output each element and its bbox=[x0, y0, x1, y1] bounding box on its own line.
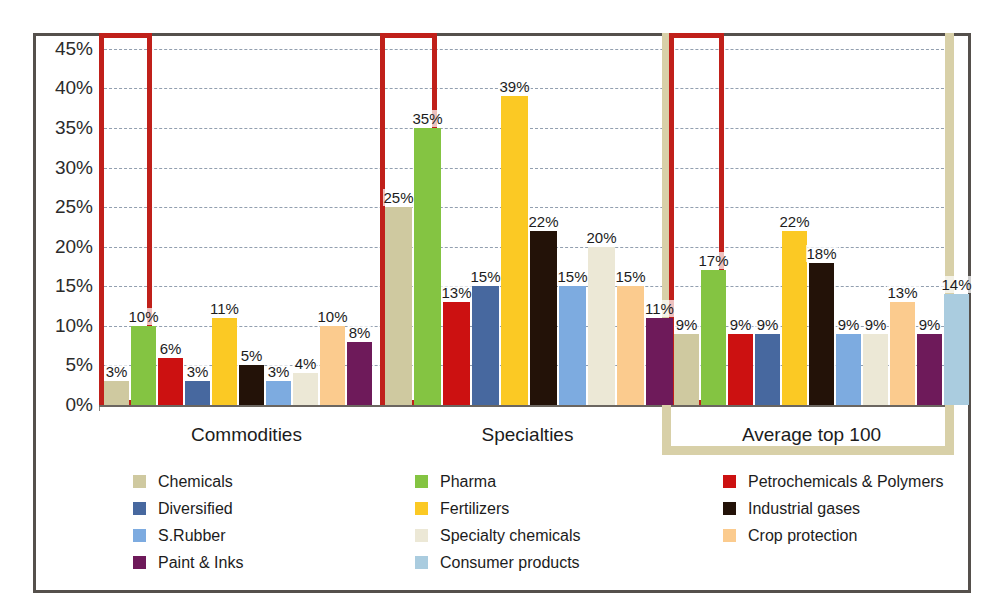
bar[interactable]: 18% bbox=[809, 263, 834, 405]
bar[interactable]: 25% bbox=[385, 207, 412, 405]
bar-value-label: 22% bbox=[527, 213, 559, 230]
legend-item[interactable]: Specialty chemicals bbox=[415, 522, 581, 549]
bar[interactable]: 39% bbox=[501, 96, 528, 405]
bar[interactable]: 13% bbox=[890, 302, 915, 405]
bar-value-label: 9% bbox=[729, 316, 753, 333]
y-axis-tick-label: 10% bbox=[37, 315, 93, 337]
bar-value-label: 8% bbox=[348, 324, 372, 341]
legend-label: Crop protection bbox=[748, 527, 857, 545]
bar[interactable]: 20% bbox=[588, 247, 615, 405]
chart-legend: ChemicalsDiversifiedS.RubberPaint & Inks… bbox=[133, 468, 933, 568]
bar[interactable]: 14% bbox=[944, 294, 969, 405]
bar-value-label: 39% bbox=[498, 78, 530, 95]
bar-value-label: 9% bbox=[918, 316, 942, 333]
legend-item[interactable]: Industrial gases bbox=[723, 495, 944, 522]
bar-value-label: 10% bbox=[316, 308, 348, 325]
legend-swatch-icon bbox=[415, 475, 428, 488]
bar[interactable]: 4% bbox=[293, 373, 318, 405]
x-axis-line bbox=[99, 405, 954, 407]
y-axis-labels: 45%40%35%30%25%20%15%10%5%0% bbox=[33, 33, 93, 405]
legend-item[interactable]: Fertilizers bbox=[415, 495, 581, 522]
bar[interactable]: 9% bbox=[755, 334, 780, 405]
bar-value-label: 35% bbox=[411, 110, 443, 127]
bar[interactable]: 15% bbox=[617, 286, 644, 405]
bar[interactable]: 22% bbox=[530, 231, 557, 405]
y-axis-tick-label: 45% bbox=[37, 38, 93, 60]
legend-column: ChemicalsDiversifiedS.RubberPaint & Inks bbox=[133, 468, 243, 576]
legend-label: Industrial gases bbox=[748, 500, 860, 518]
bar[interactable]: 9% bbox=[674, 334, 699, 405]
category-label: Specialties bbox=[385, 424, 670, 446]
bar-value-label: 17% bbox=[697, 252, 729, 269]
bar[interactable]: 11% bbox=[646, 318, 673, 405]
legend-item[interactable]: Chemicals bbox=[133, 468, 243, 495]
bar[interactable]: 13% bbox=[443, 302, 470, 405]
bar[interactable]: 35% bbox=[414, 128, 441, 405]
legend-label: S.Rubber bbox=[158, 527, 226, 545]
legend-swatch-icon bbox=[415, 502, 428, 515]
legend-label: Chemicals bbox=[158, 473, 233, 491]
legend-item[interactable]: Consumer products bbox=[415, 549, 581, 576]
bar-value-label: 9% bbox=[837, 316, 861, 333]
bar[interactable]: 15% bbox=[559, 286, 586, 405]
bar-value-label: 22% bbox=[778, 213, 810, 230]
bar[interactable]: 9% bbox=[728, 334, 753, 405]
legend-label: Diversified bbox=[158, 500, 233, 518]
legend-item[interactable]: Pharma bbox=[415, 468, 581, 495]
y-axis-tick-label: 15% bbox=[37, 275, 93, 297]
legend-item[interactable]: Crop protection bbox=[723, 522, 944, 549]
bar-value-label: 6% bbox=[159, 340, 183, 357]
bar[interactable]: 5% bbox=[239, 365, 264, 405]
bar[interactable]: 11% bbox=[212, 318, 237, 405]
bar[interactable]: 9% bbox=[836, 334, 861, 405]
bar-value-label: 20% bbox=[585, 229, 617, 246]
bar[interactable]: 15% bbox=[472, 286, 499, 405]
gridline bbox=[99, 49, 954, 50]
legend-swatch-icon bbox=[723, 475, 736, 488]
legend-swatch-icon bbox=[415, 529, 428, 542]
bar[interactable]: 9% bbox=[863, 334, 888, 405]
bar[interactable]: 9% bbox=[917, 334, 942, 405]
bar[interactable]: 10% bbox=[320, 326, 345, 405]
legend-item[interactable]: S.Rubber bbox=[133, 522, 243, 549]
legend-label: Pharma bbox=[440, 473, 496, 491]
bar-value-label: 13% bbox=[886, 284, 918, 301]
bar-value-label: 5% bbox=[240, 347, 264, 364]
y-axis-tick-label: 5% bbox=[37, 354, 93, 376]
bar-value-label: 3% bbox=[105, 363, 129, 380]
legend-swatch-icon bbox=[415, 556, 428, 569]
bar-value-label: 13% bbox=[440, 284, 472, 301]
bar[interactable]: 10% bbox=[131, 326, 156, 405]
bar-value-label: 11% bbox=[209, 300, 240, 317]
bar-value-label: 9% bbox=[864, 316, 888, 333]
y-axis-tick-label: 0% bbox=[37, 394, 93, 416]
bar-value-label: 25% bbox=[382, 189, 414, 206]
y-axis-tick-label: 35% bbox=[37, 117, 93, 139]
bar-value-label: 10% bbox=[127, 308, 159, 325]
y-axis-tick-label: 40% bbox=[37, 77, 93, 99]
bar[interactable]: 3% bbox=[185, 381, 210, 405]
legend-label: Petrochemicals & Polymers bbox=[748, 473, 944, 491]
bar[interactable]: 6% bbox=[158, 358, 183, 405]
bar-value-label: 18% bbox=[805, 245, 837, 262]
category-label: Average top 100 bbox=[674, 424, 949, 446]
y-axis-tick-label: 20% bbox=[37, 236, 93, 258]
bar-value-label: 9% bbox=[756, 316, 780, 333]
legend-item[interactable]: Diversified bbox=[133, 495, 243, 522]
legend-item[interactable]: Paint & Inks bbox=[133, 549, 243, 576]
bar[interactable]: 17% bbox=[701, 270, 726, 405]
legend-label: Consumer products bbox=[440, 554, 580, 572]
bar-value-label: 3% bbox=[186, 363, 210, 380]
legend-item[interactable]: Petrochemicals & Polymers bbox=[723, 468, 944, 495]
legend-column: PharmaFertilizersSpecialty chemicalsCons… bbox=[415, 468, 581, 576]
bar[interactable]: 22% bbox=[782, 231, 807, 405]
bar-value-label: 15% bbox=[556, 268, 588, 285]
legend-swatch-icon bbox=[133, 556, 146, 569]
bar[interactable]: 8% bbox=[347, 342, 372, 405]
bar[interactable]: 3% bbox=[266, 381, 291, 405]
bar-value-label: 11% bbox=[644, 300, 675, 317]
legend-swatch-icon bbox=[133, 475, 146, 488]
y-axis-tick-label: 30% bbox=[37, 157, 93, 179]
legend-swatch-icon bbox=[723, 502, 736, 515]
bar[interactable]: 3% bbox=[104, 381, 129, 405]
